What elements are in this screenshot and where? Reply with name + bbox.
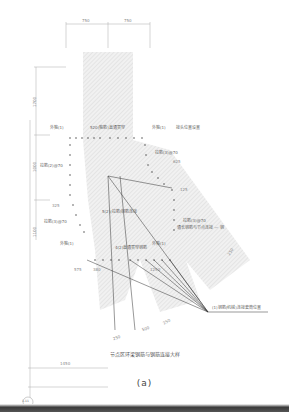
dim-right-2: 125 (180, 188, 188, 192)
dim-top-left: 750 (82, 19, 90, 23)
label-leader-note: (1)钢筋(机械)连接套筒位置 (212, 306, 261, 310)
dim-seg-c: 1250 (150, 268, 160, 272)
label-right-mid: 拉筋(3)@70 (183, 219, 206, 223)
dim-left-middle: 1000 (33, 162, 37, 172)
label-left-2: 拉筋(3)@70 (44, 220, 67, 224)
label-upper-right-note: 接头位置设置 (176, 126, 200, 130)
label-lower-left: 外箍(1) (60, 242, 74, 246)
dim-top-right: 750 (124, 19, 132, 23)
dim-seg-b: 380 (93, 268, 101, 272)
label-upper-left: 外箍(1) (50, 126, 64, 130)
drawing-subtitle: (a) (0, 378, 289, 388)
dim-right-1: 625 (173, 160, 181, 164)
label-right-1: 拉筋(3)@70 (155, 151, 178, 155)
dim-left-lower: 1100 (33, 227, 37, 237)
dim-bottom-width: 1450 (60, 362, 70, 366)
dim-seg-a: 575 (74, 268, 82, 272)
dim-left-upper: 1700 (33, 97, 37, 107)
label-center-mid: 5(2)(拉筋)钢筋连接 (102, 210, 137, 214)
dim-left-small: 325 (52, 204, 60, 208)
label-upper-center: 520(箍筋)直通贯穿 (90, 126, 125, 130)
label-lower-right: 外箍(1) (152, 242, 166, 246)
label-left-1: 拉筋(2)@70 (40, 164, 63, 168)
bottom-edge (0, 404, 289, 412)
label-right-mid-2: 通长钢筋与节点连接 — 钢 (177, 226, 224, 230)
axis-bubble-label: 1-11 (22, 400, 29, 403)
drawing-title: 节点区环梁钢筋与钢筋连接大样 (0, 350, 289, 357)
label-lower-center: 4(2)直通贯穿钢筋 (115, 246, 147, 250)
label-upper-right: 外箍(1) (152, 126, 166, 130)
